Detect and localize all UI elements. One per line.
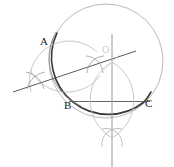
vertex-label-c: C: [145, 98, 152, 109]
compass-arc-vesica-left: [90, 62, 112, 138]
center-label-o: O: [102, 45, 109, 55]
vertex-label-a: A: [40, 36, 48, 47]
geometry-figure: A B C O: [0, 0, 174, 167]
perpendicular-bisector-ab: [13, 51, 136, 92]
construction-drawing: [0, 0, 174, 167]
compass-arc-vesica-right: [112, 62, 134, 138]
compass-arc-from-a: [29, 41, 97, 92]
vertex-label-b: B: [64, 100, 71, 111]
